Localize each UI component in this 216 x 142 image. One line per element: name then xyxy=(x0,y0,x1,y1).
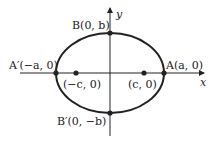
ellipse-diagram: y x B(0, b) A′(−a, 0) A(a, 0) (−c, 0) (c… xyxy=(0,0,216,142)
diagram-canvas: y x B(0, b) A′(−a, 0) A(a, 0) (−c, 0) (c… xyxy=(0,0,216,142)
label-focus-left: (−c, 0) xyxy=(63,78,101,91)
focus-right-point xyxy=(141,70,146,75)
focus-left-point xyxy=(73,70,78,75)
x-axis-label: x xyxy=(200,76,207,89)
label-a: A(a, 0) xyxy=(165,59,203,72)
y-axis-label: y xyxy=(115,8,123,21)
label-b: B(0, b) xyxy=(72,19,110,32)
label-focus-right: (c, 0) xyxy=(128,78,157,91)
covertex-b-prime-point xyxy=(107,110,112,115)
label-b-prime: B′(0, −b) xyxy=(57,115,106,128)
label-a-prime: A′(−a, 0) xyxy=(8,59,58,72)
